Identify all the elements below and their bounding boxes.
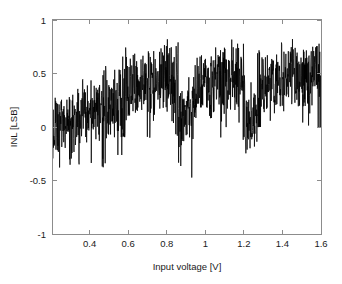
y-tick-label: 0 (41, 122, 46, 133)
y-tick-label: 0.5 (33, 68, 46, 79)
x-tick-label: 1.6 (314, 238, 327, 249)
y-axis-title: INL [LSB] (8, 107, 19, 147)
inl-plot: 0.40.60.811.21.41.6 10.50-0.5-1 Input vo… (0, 0, 342, 284)
y-tick-label: 1 (41, 15, 46, 26)
x-axis-title: Input voltage [V] (153, 261, 222, 272)
x-tick-label: 0.6 (122, 238, 135, 249)
y-tick-label: -0.5 (30, 175, 46, 186)
x-tick-label: 1 (203, 238, 208, 249)
x-tick-label: 0.4 (83, 238, 96, 249)
y-tick-label: -1 (38, 229, 46, 240)
x-tick-label: 1.4 (276, 238, 289, 249)
x-tick-label: 1.2 (237, 238, 250, 249)
figure-container: 0.40.60.811.21.41.6 10.50-0.5-1 Input vo… (0, 0, 342, 284)
x-tick-label: 0.8 (160, 238, 173, 249)
